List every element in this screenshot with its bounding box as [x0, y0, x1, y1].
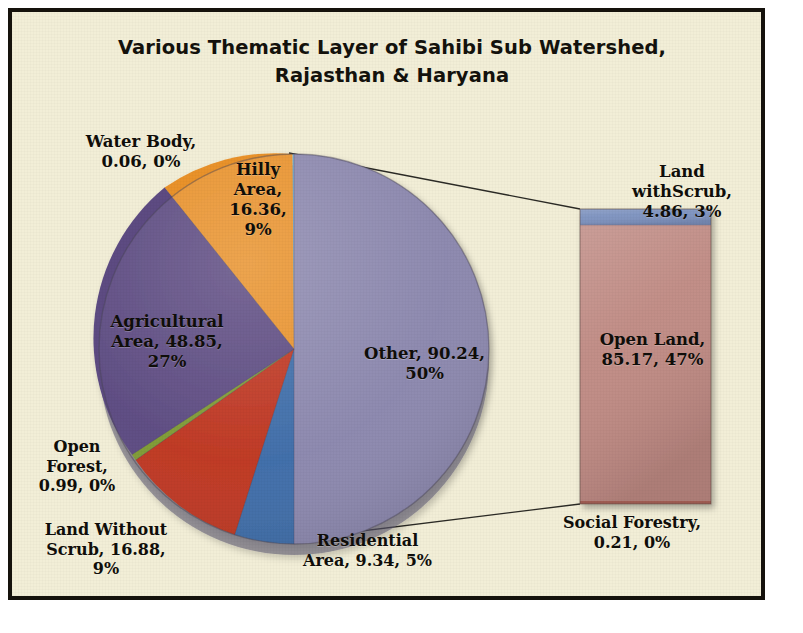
pie-label-open-forest: Open Forest, 0.99, 0%: [22, 437, 132, 496]
pie-label-hilly-area: Hilly Area, 16.36, 9%: [217, 160, 299, 240]
bar-label-land-with-scrub: Land withScrub, 4.86, 3%: [612, 162, 752, 222]
chart-image: Various Thematic Layer of Sahibi Sub Wat…: [0, 0, 803, 633]
chart-frame: Various Thematic Layer of Sahibi Sub Wat…: [8, 8, 765, 600]
pie-label-agricultural-area: Agricultural Area, 48.85, 27%: [92, 312, 242, 372]
pie-label-water-body: Water Body, 0.06, 0%: [56, 132, 226, 172]
bar-label-social-forestry: Social Forestry, 0.21, 0%: [537, 513, 727, 552]
pie-label-residential-area: Residential Area, 9.34, 5%: [280, 531, 455, 570]
pie-label-other: Other, 90.24, 50%: [342, 344, 507, 384]
pie-label-land-without-scrub: Land Without Scrub, 16.88, 9%: [26, 520, 186, 579]
bar-label-open-land: Open Land, 85.17, 47%: [590, 330, 715, 370]
